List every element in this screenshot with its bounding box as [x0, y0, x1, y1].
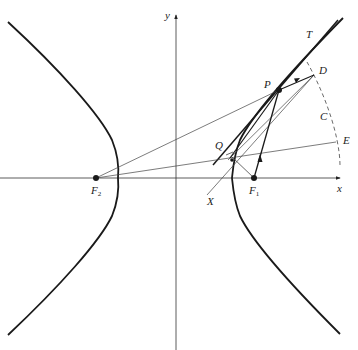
label-c: C: [320, 110, 328, 122]
tangent-line-t: [213, 20, 338, 165]
hyperbola-left-branch: [8, 22, 118, 335]
point-f2: [93, 175, 99, 181]
label-d: D: [318, 64, 327, 76]
line-x-d: [207, 75, 314, 195]
point-q-dot: [230, 158, 234, 162]
label-t: T: [306, 28, 313, 40]
label-f2: F2: [90, 184, 102, 198]
label-p: P: [263, 78, 271, 90]
point-f1: [251, 175, 257, 181]
line-f1-q: [232, 157, 254, 178]
label-f2-sub: 2: [98, 190, 102, 198]
y-axis-label: y: [164, 9, 170, 21]
arrowhead-f1-p: [258, 154, 263, 162]
x-axis-label: x: [336, 182, 342, 194]
point-p: [276, 87, 282, 93]
line-f2-p: [96, 90, 279, 178]
label-f1: F1: [248, 184, 260, 198]
label-e: E: [342, 134, 350, 146]
hyperbola-diagram: x y T P D C E Q X F1 F2: [0, 0, 358, 350]
label-x: X: [206, 195, 215, 207]
line-p-q: [230, 90, 279, 158]
label-f1-sub: 1: [256, 190, 260, 198]
label-q: Q: [215, 139, 223, 151]
